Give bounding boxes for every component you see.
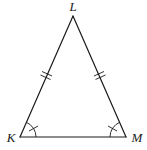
vertex-label-k: K — [6, 130, 17, 145]
angle-mark-m — [108, 122, 120, 137]
triangle-diagram: L K M — [0, 0, 147, 150]
angle-mark-k — [26, 122, 38, 137]
vertex-label-m: M — [131, 130, 144, 145]
side-lm — [73, 16, 126, 137]
vertex-label-l: L — [68, 0, 76, 14]
side-kl — [20, 16, 73, 137]
